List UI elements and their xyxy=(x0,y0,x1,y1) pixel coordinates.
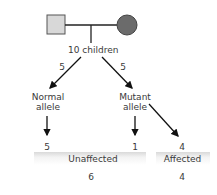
mutant-allele-label-2: allele xyxy=(115,102,155,112)
branch-count-normal: 5 xyxy=(57,62,67,72)
male-parent-square xyxy=(47,15,65,34)
affected-total: 4 xyxy=(177,172,187,182)
affected-label: Affected xyxy=(155,154,210,164)
unaffected-label: Unaffected xyxy=(63,154,123,164)
count-normal-unaffected: 5 xyxy=(42,142,52,152)
branch-count-mutant: 5 xyxy=(118,62,128,72)
female-parent-circle xyxy=(117,15,137,35)
count-mutant-unaffected: 1 xyxy=(130,142,140,152)
normal-allele-label-1: Normal xyxy=(28,92,68,102)
children-label: 10 children xyxy=(68,45,118,55)
unaffected-total: 6 xyxy=(86,172,96,182)
count-mutant-affected: 4 xyxy=(177,142,187,152)
normal-allele-label-2: allele xyxy=(28,102,68,112)
mutant-allele-label-1: Mutant xyxy=(115,92,155,102)
